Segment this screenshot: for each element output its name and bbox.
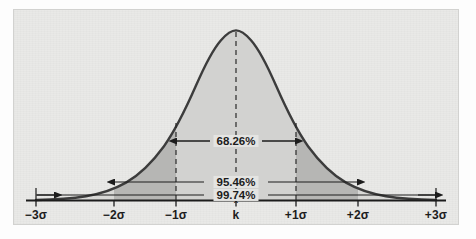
axis-label-minus-2-sigma: −2σ xyxy=(103,208,126,222)
axis-label-minus-1-sigma: −1σ xyxy=(165,208,188,222)
label-interval-68: 68.26% xyxy=(213,135,258,147)
axis-label-plus-3-sigma: +3σ xyxy=(425,208,448,222)
axis-label-plus-1-sigma: +1σ xyxy=(285,208,308,222)
k-hat-accent: ˆ xyxy=(234,200,238,211)
axis-label-minus-3-sigma: −3σ xyxy=(25,208,48,222)
axis-label-plus-2-sigma: +2σ xyxy=(347,208,370,222)
axis-label-center-k-hat: ˆ k xyxy=(233,208,240,222)
region-plus1-to-plus2 xyxy=(296,10,358,224)
chart-plate: 68.26% 95.46% 99.74% −3σ −2σ −1σ ˆ k +1σ… xyxy=(13,9,459,225)
label-interval-95: 95.46% xyxy=(213,176,258,188)
normal-distribution-figure: 68.26% 95.46% 99.74% −3σ −2σ −1σ ˆ k +1σ… xyxy=(0,0,476,239)
region-minus2-to-minus1 xyxy=(114,10,176,224)
